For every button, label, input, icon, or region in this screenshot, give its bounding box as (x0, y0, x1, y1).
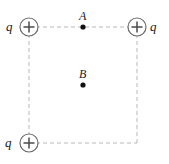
point-b-label: B (79, 68, 86, 80)
point-a-dot (80, 24, 85, 29)
charge-top-right (128, 18, 146, 36)
diagram-canvas (0, 0, 169, 164)
charge-top-left-label: q (6, 20, 13, 33)
point-a-label: A (79, 10, 86, 22)
charge-bottom-left-label: q (5, 136, 12, 149)
charge-top-left (20, 18, 38, 36)
charge-top-right-label: q (150, 20, 157, 33)
charge-bottom-left (20, 134, 38, 152)
charge-square-diagram: q q q A B (0, 0, 169, 164)
point-b-dot (80, 82, 85, 87)
